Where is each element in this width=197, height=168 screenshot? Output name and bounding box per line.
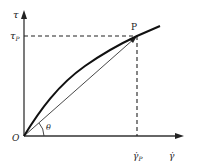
y-axis-arrow-icon [21,10,27,19]
gamma-p-label: γ̇P [133,151,143,162]
shear-stress-strain-rate-diagram: τ τP P O θ γ̇P γ̇ [0,0,197,168]
x-axis-arrow-icon [175,133,184,139]
theta-arc [39,123,44,136]
secant-line [24,38,135,136]
x-axis-label: γ̇ [169,151,175,161]
tau-p-label: τP [10,30,21,42]
point-p-label: P [131,22,137,32]
flow-curve [24,26,160,136]
theta-label: θ [46,123,51,132]
y-axis-label: τ [13,9,19,20]
origin-label: O [12,133,20,143]
